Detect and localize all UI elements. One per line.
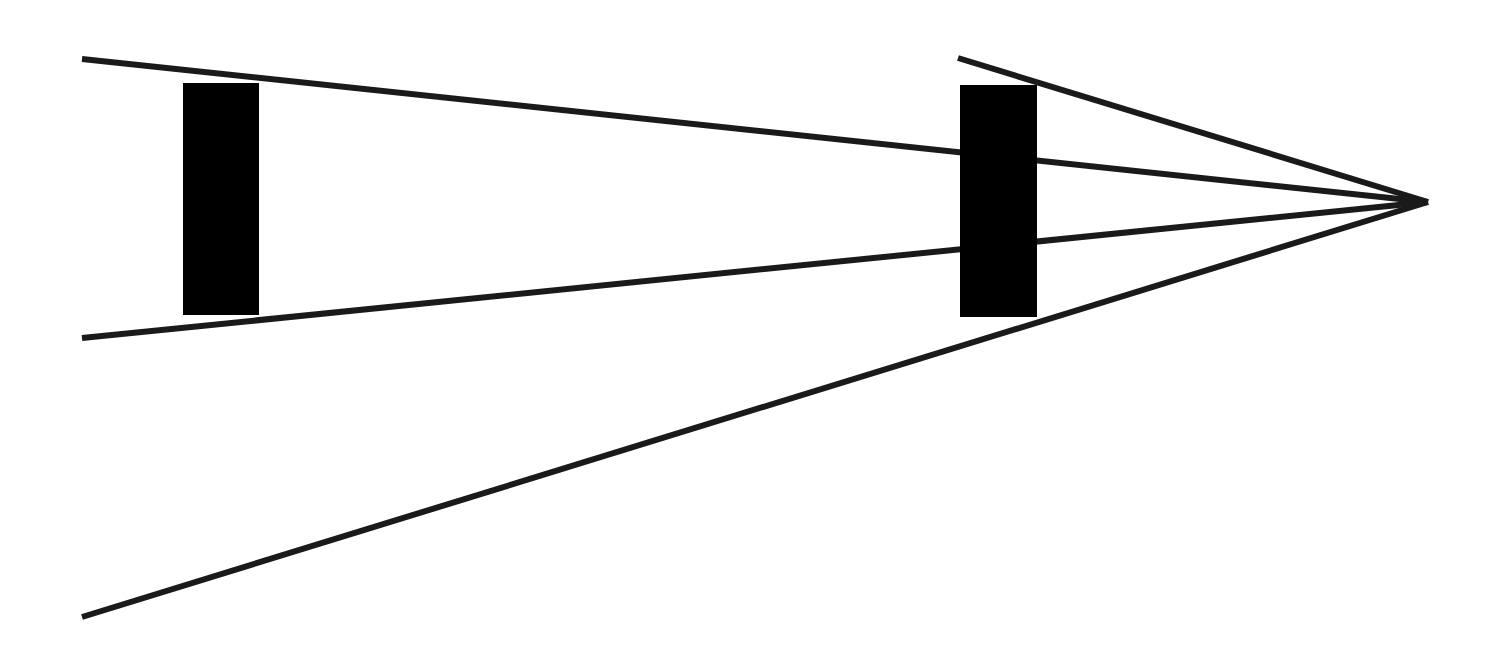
left-bar: [183, 83, 259, 315]
perspective-illusion-diagram: [0, 0, 1510, 665]
upper-inner-line: [82, 59, 1428, 202]
lower-outer-line: [82, 202, 1428, 617]
right-bar: [960, 85, 1037, 317]
converging-lines: [82, 58, 1428, 617]
diagram-canvas: [0, 0, 1510, 665]
lower-inner-line: [82, 202, 1428, 338]
